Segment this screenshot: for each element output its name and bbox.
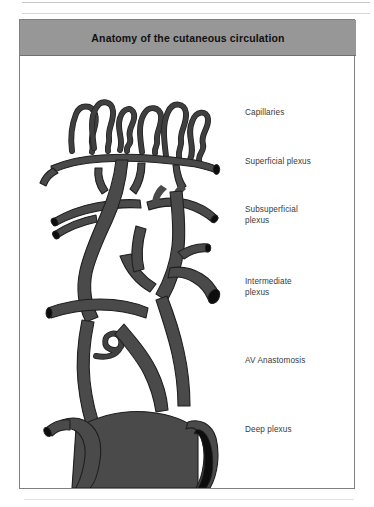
label-superficial-plexus: Superficial plexus	[245, 156, 311, 167]
superficial-connectors	[95, 163, 186, 194]
label-subsuperficial-plexus: Subsuperficial plexus	[245, 204, 298, 226]
figure-body: .v { fill:#4a4a4a; stroke:#1f1f1f; strok…	[20, 56, 354, 488]
main-vessel-trunks	[78, 160, 185, 322]
page-top-rule-secondary	[22, 13, 370, 14]
label-av-anastomosis: AV Anastomosis	[245, 355, 305, 366]
cutaneous-circulation-diagram: .v { fill:#4a4a4a; stroke:#1f1f1f; strok…	[20, 56, 238, 488]
page-bottom-rule	[24, 499, 354, 500]
intermediate-plexus	[46, 226, 222, 318]
page-top-rule	[22, 2, 370, 3]
capillary-loops	[71, 102, 208, 162]
capillary-loop	[164, 105, 186, 157]
capillary-loop	[140, 108, 161, 153]
label-intermediate-plexus: Intermediate plexus	[245, 276, 292, 298]
label-capillaries: Capillaries	[245, 107, 284, 118]
figure-title-bar: Anatomy of the cutaneous circulation	[20, 20, 356, 56]
capillary-loop	[119, 109, 134, 151]
page: Anatomy of the cutaneous circulation .v …	[0, 0, 374, 507]
label-deep-plexus: Deep plexus	[245, 424, 292, 435]
capillary-loop	[190, 113, 208, 162]
figure-title: Anatomy of the cutaneous circulation	[91, 32, 284, 44]
figure-box: Anatomy of the cutaneous circulation .v …	[19, 19, 355, 489]
deep-plexus	[42, 412, 218, 488]
